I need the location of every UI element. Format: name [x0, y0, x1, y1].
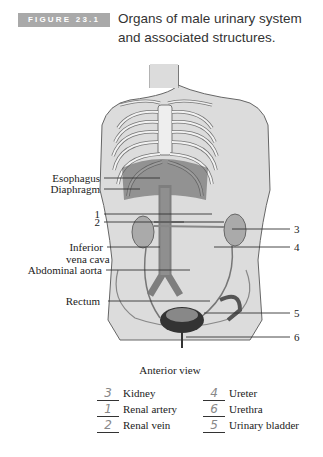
term-urinary-bladder: Urinary bladder — [229, 417, 299, 433]
answer-blank[interactable]: 2 — [97, 418, 119, 433]
label-number-2: 2 — [95, 216, 101, 228]
label-number-5: 5 — [294, 307, 300, 319]
answer-row-renal-artery: 1 Renal artery — [97, 401, 177, 417]
answer-blank[interactable]: 3 — [97, 386, 119, 401]
kidney-left — [132, 216, 154, 248]
answer-key-left: 3 Kidney 1 Renal artery 2 Renal vein — [97, 385, 177, 433]
label-abdominal-aorta: Abdominal aorta — [28, 264, 102, 276]
answer-blank[interactable]: 6 — [203, 402, 225, 417]
label-number-4: 4 — [294, 241, 300, 253]
answer-blank[interactable]: 4 — [203, 386, 225, 401]
answer-blank[interactable]: 5 — [203, 418, 225, 433]
term-ureter: Ureter — [229, 385, 257, 401]
answer-row-urethra: 6 Urethra — [203, 401, 299, 417]
answer-row-urinary-bladder: 5 Urinary bladder — [203, 417, 299, 433]
label-inferior-vena-cava-line1: Inferior — [69, 241, 103, 253]
answer-row-ureter: 4 Ureter — [203, 385, 299, 401]
label-number-6: 6 — [294, 331, 300, 343]
label-number-3: 3 — [294, 223, 300, 235]
kidney-right — [224, 214, 246, 246]
answer-row-kidney: 3 Kidney — [97, 385, 177, 401]
torso-outline — [100, 65, 270, 340]
answer-row-renal-vein: 2 Renal vein — [97, 417, 177, 433]
answer-blank[interactable]: 1 — [97, 402, 119, 417]
answer-key-right: 4 Ureter 6 Urethra 5 Urinary bladder — [203, 385, 299, 433]
urinary-system-illustration — [0, 0, 323, 360]
label-diaphragm: Diaphragm — [51, 183, 100, 195]
label-rectum: Rectum — [66, 295, 100, 307]
term-kidney: Kidney — [123, 385, 155, 401]
term-renal-vein: Renal vein — [123, 417, 170, 433]
term-urethra: Urethra — [229, 401, 263, 417]
view-caption: Anterior view — [139, 364, 200, 376]
term-renal-artery: Renal artery — [123, 401, 177, 417]
